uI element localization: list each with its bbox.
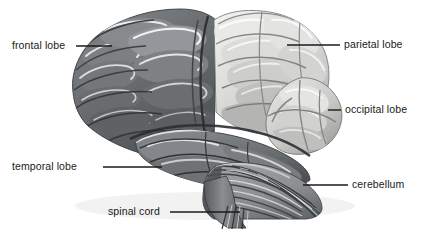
label-parietal-lobe: parietal lobe	[344, 39, 403, 50]
brain-body	[73, 9, 355, 229]
brain-diagram-figure: frontal lobe parietal lobe occipital lob…	[0, 0, 447, 230]
label-spinal-cord: spinal cord	[108, 206, 160, 217]
label-frontal-lobe: frontal lobe	[12, 40, 65, 51]
label-occipital-lobe: occipital lobe	[345, 104, 407, 115]
label-cerebellum: cerebellum	[352, 179, 404, 190]
label-temporal-lobe: temporal lobe	[12, 161, 77, 172]
brain-illustration	[0, 0, 447, 230]
